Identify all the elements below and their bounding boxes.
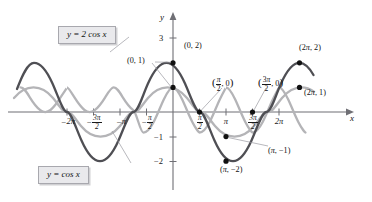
- xtick-2pi: 2π: [266, 116, 292, 126]
- ytick-3: 3: [159, 33, 163, 43]
- ytick--1: −1: [154, 132, 163, 142]
- y-axis-label: y: [160, 12, 164, 22]
- label-point-pi-1: (π, −1): [268, 146, 290, 155]
- point-pi-2: [223, 159, 228, 164]
- callout-2cosx: y = 2 cos x: [58, 26, 116, 44]
- figure-canvas: y = 2 cos x y = cos x y x −2π −3π2 −π −π…: [0, 0, 372, 202]
- point-2pi-2: [297, 60, 302, 65]
- x-axis-label: x: [350, 113, 354, 123]
- callout-2cosx-label: y = 2 cos x: [67, 29, 107, 39]
- xtick--pi-2: −π2: [134, 114, 160, 130]
- xtick--pi: −π: [108, 116, 134, 127]
- ytick--2: −2: [154, 156, 163, 166]
- label-point-3pi2-0: (3π2, 0): [258, 76, 283, 92]
- label-point-0-1: (0, 1): [127, 56, 145, 65]
- xtick-3pi-2: 3π2: [240, 114, 266, 130]
- callout-cosx-label: y = cos x: [47, 169, 80, 179]
- label-point-0-2: (0, 2): [184, 41, 202, 50]
- xtick-pi-2: π2: [187, 114, 213, 130]
- leader-0-1b: [152, 63, 171, 87]
- point-2pi-1: [297, 85, 302, 90]
- point-0-2: [170, 60, 175, 65]
- point-0-1: [170, 85, 175, 90]
- point-pi-1: [223, 134, 228, 139]
- xtick--2pi: −2π: [55, 116, 81, 127]
- label-point-2pi-2: (2π, 2): [299, 43, 321, 52]
- label-point-pi2-0: (π2, 0): [212, 76, 233, 92]
- y-axis-arrowhead: [170, 12, 177, 20]
- label-point-2pi-1: (2π, 1): [304, 88, 326, 97]
- label-point-pi-2: (π, −2): [220, 165, 242, 174]
- xtick-pi: π: [213, 116, 239, 126]
- xtick--3pi-2: −3π2: [81, 114, 107, 130]
- callout-cosx: y = cos x: [38, 166, 89, 184]
